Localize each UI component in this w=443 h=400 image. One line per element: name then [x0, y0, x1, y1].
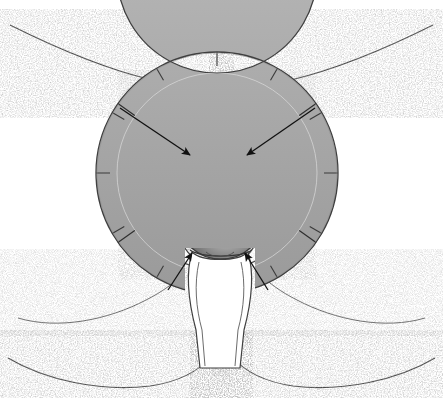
medical-illustration — [0, 0, 443, 400]
exit-tube — [189, 252, 252, 368]
illustration-canvas — [0, 0, 443, 400]
